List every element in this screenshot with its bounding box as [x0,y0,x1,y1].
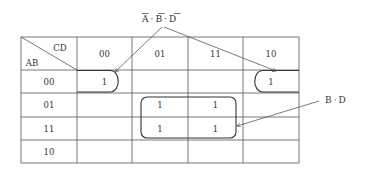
term-var-d: D [339,95,346,105]
row-header: 11 [44,124,55,134]
col-header: 00 [99,49,110,59]
row-header: 00 [44,77,55,87]
right-term-arrow [237,101,319,126]
cell-00-10: 1 [268,77,273,87]
row-header: 10 [44,147,55,157]
top-term-label: A·B·D [141,14,181,25]
term-dot: · [334,95,337,105]
term-var-b: B [155,14,162,24]
row-header: 01 [44,100,55,110]
term-var-a: A [141,14,149,24]
karnaugh-map: CD AB 00 01 11 10 00 01 11 10 1 1 1 1 1 … [0,0,367,174]
row-variable-label: AB [25,58,38,68]
cell-11-11: 1 [213,124,218,134]
term-dot: · [151,14,154,24]
term-var-d: D [169,14,176,24]
col-header: 10 [266,49,277,59]
term-dot: · [164,14,167,24]
right-term-label: B·D [325,95,346,105]
cell-00-00: 1 [102,77,107,87]
wraparound-group-right-loop [255,71,299,93]
term-var-b: B [325,95,332,105]
cell-01-11: 1 [213,100,218,110]
center-group-loop [141,97,236,138]
svg-text:A·B·D: A·B·D [141,14,176,24]
top-term-arrow-right [164,27,276,71]
cell-01-01: 1 [157,100,162,110]
cell-11-01: 1 [157,124,162,134]
wraparound-group-left-loop [77,71,118,93]
col-header: 01 [155,49,166,59]
col-header: 11 [210,49,221,59]
col-variable-label: CD [53,43,67,53]
